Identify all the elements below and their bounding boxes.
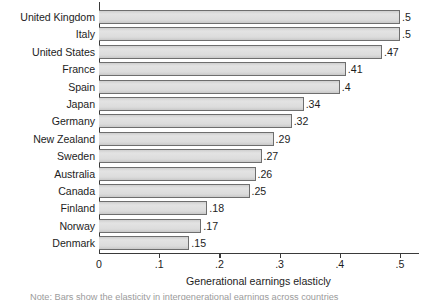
category-label: United Kingdom (20, 12, 95, 23)
bar: .15 (99, 236, 189, 250)
bar-row: United States.47 (99, 45, 400, 59)
bar-value-label: .34 (306, 99, 321, 110)
category-label: Germany (52, 116, 95, 127)
bar-row: Spain.4 (99, 80, 400, 94)
bar-value-label: .32 (294, 116, 309, 127)
bar-row: Japan.34 (99, 97, 400, 111)
category-label: United States (32, 47, 95, 58)
x-tick-label: .1 (155, 259, 164, 270)
bar: .25 (99, 184, 250, 198)
bar-row: Germany.32 (99, 114, 400, 128)
bar: .27 (99, 149, 262, 163)
category-label: Spain (68, 81, 95, 92)
category-label: Italy (76, 29, 95, 40)
bar-value-label: .29 (276, 134, 291, 145)
bar-value-label: .47 (384, 47, 399, 58)
bar-value-label: .15 (191, 238, 206, 249)
bar-row: France.41 (99, 62, 400, 76)
category-label: Canada (58, 186, 95, 197)
bar-row: Norway.17 (99, 219, 400, 233)
x-tick-label: .3 (275, 259, 284, 270)
bar-value-label: .18 (209, 203, 224, 214)
bar-row: Denmark.15 (99, 236, 400, 250)
category-label: Sweden (57, 151, 95, 162)
bar: .32 (99, 114, 292, 128)
category-label: Japan (66, 99, 95, 110)
bar-row: Australia.26 (99, 167, 400, 181)
bar-value-label: .27 (264, 151, 279, 162)
bar-row: Italy.5 (99, 27, 400, 41)
bar-row: Sweden.27 (99, 149, 400, 163)
bar-row: New Zealand.29 (99, 132, 400, 146)
bar: .26 (99, 167, 256, 181)
category-label: Denmark (52, 238, 95, 249)
bar: .5 (99, 10, 400, 24)
x-tick-label: 0 (96, 259, 102, 270)
bar-value-label: .17 (203, 221, 218, 232)
x-tick-label: .4 (335, 259, 344, 270)
bar-value-label: .5 (402, 29, 411, 40)
bar: .4 (99, 80, 340, 94)
bar: .41 (99, 62, 346, 76)
bar: .29 (99, 132, 274, 146)
x-axis-line (99, 253, 419, 254)
bar: .47 (99, 45, 382, 59)
bar: .5 (99, 27, 400, 41)
bar-row: United Kingdom.5 (99, 10, 400, 24)
generational-earnings-elasticity-chart: United Kingdom.5Italy.5United States.47F… (0, 0, 435, 300)
x-tick-label: .5 (396, 259, 405, 270)
bar-value-label: .25 (252, 186, 267, 197)
category-label: New Zealand (33, 134, 95, 145)
bar-value-label: .4 (342, 81, 351, 92)
category-label: Australia (54, 168, 95, 179)
bar-value-label: .26 (258, 168, 273, 179)
bar: .18 (99, 201, 207, 215)
bar-value-label: .5 (402, 12, 411, 23)
category-label: Norway (59, 221, 95, 232)
x-tick-label: .2 (215, 259, 224, 270)
plot-area: United Kingdom.5Italy.5United States.47F… (99, 6, 400, 250)
bar-value-label: .41 (348, 64, 363, 75)
bar-row: Finland.18 (99, 201, 400, 215)
x-axis-title: Generational earnings elasticly (186, 276, 331, 287)
category-label: France (62, 64, 95, 75)
footnote-clipped: Note: Bars show the elasticity in interg… (30, 293, 405, 300)
bar: .17 (99, 219, 201, 233)
bar: .34 (99, 97, 304, 111)
category-label: Finland (61, 203, 95, 214)
bar-row: Canada.25 (99, 184, 400, 198)
